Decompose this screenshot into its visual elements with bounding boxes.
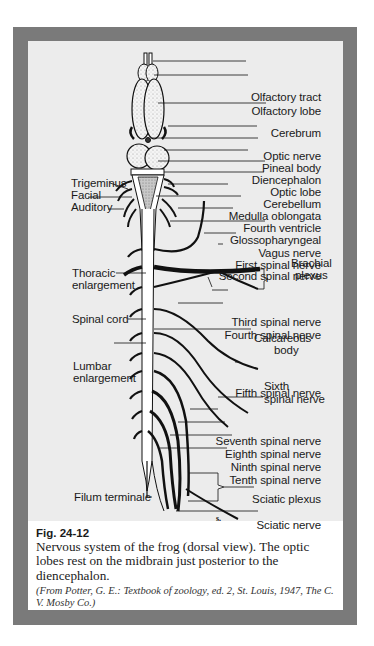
label-sixth-spinal-nerve: spinal nerve (264, 393, 325, 405)
label-thoracic-enlargement: enlargement (72, 279, 135, 291)
label-pineal-body: Pineal body (262, 162, 321, 174)
label-diencephalon: Diencephalon (252, 174, 321, 186)
figure-caption: Fig. 24-12 Nervous system of the frog (d… (36, 527, 336, 610)
label-olfactory-tract: Olfactory tract (251, 91, 321, 103)
figure-number: Fig. 24-12 (36, 527, 336, 539)
label-calcareous: Calcareous (254, 332, 311, 344)
label-facial: Facial (71, 189, 101, 201)
label-body: body (274, 344, 299, 356)
label-thoracic: Thoracic (72, 267, 115, 279)
label-medulla-oblongata: Medulla oblongata (229, 210, 321, 222)
label-brachial: Brachial (291, 257, 332, 269)
label-cerebrum: Cerebrum (271, 127, 321, 139)
label-lumbar: Lumbar (73, 360, 111, 372)
label-plexus: plexus (295, 269, 328, 281)
label-cerebellum: Cerebellum (263, 198, 321, 210)
label-lumbar-enlargement: enlargement (73, 372, 136, 384)
label-fourth-ventricle: Fourth ventricle (243, 222, 321, 234)
label-sixth: Sixth (264, 380, 289, 392)
label-ninth-spinal-nerve: Ninth spinal nerve (231, 461, 321, 473)
frog-nervous-system-illustration: s. Olfactory tractOlfactory lobeCerebrum… (28, 41, 343, 521)
label-optic-lobe: Optic lobe (270, 186, 321, 198)
figure-frame: s. Olfactory tractOlfactory lobeCerebrum… (13, 27, 357, 625)
label-optic-nerve: Optic nerve (263, 150, 321, 162)
caption-source: (From Potter, G. E.: Textbook of zoology… (36, 585, 336, 610)
label-auditory: Auditory (71, 201, 112, 213)
label-third-spinal-nerve: Third spinal nerve (231, 316, 321, 328)
label-eighth-spinal-nerve: Eighth spinal nerve (225, 448, 321, 460)
label-glossopharyngeal: Glossopharyngeal (230, 234, 321, 246)
label-sciatic-plexus: Sciatic plexus (252, 493, 321, 505)
label-seventh-spinal-nerve: Seventh spinal nerve (216, 435, 321, 447)
caption-text: Nervous system of the frog (dorsal view)… (36, 540, 336, 583)
figure-panel: s. Olfactory tractOlfactory lobeCerebrum… (28, 41, 343, 610)
label-tenth-spinal-nerve: Tenth spinal nerve (229, 474, 321, 486)
label-spinal-cord: Spinal cord (72, 313, 128, 325)
label-trigeminus: Trigeminus (71, 177, 126, 189)
label-filum-terminale: Filum terminale (74, 491, 151, 503)
label-olfactory-lobe: Olfactory lobe (251, 105, 321, 117)
annotation-s: s. (216, 514, 221, 521)
